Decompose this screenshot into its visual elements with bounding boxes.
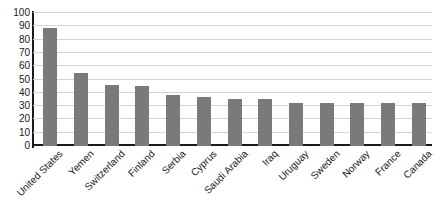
y-tick-label: 50 — [4, 75, 30, 85]
category-label: Cyprus — [188, 148, 218, 178]
bar — [166, 95, 180, 146]
bar-chart: 1009080706050403020100 United StatesYeme… — [0, 0, 434, 222]
bar — [135, 86, 149, 147]
x-axis-category-labels: United StatesYemenSwitzerlandFinlandSerb… — [33, 148, 432, 222]
y-tick-label: 30 — [4, 101, 30, 111]
y-tick-label: 20 — [4, 114, 30, 124]
bar — [258, 99, 272, 146]
bars-layer — [33, 13, 432, 146]
category-label: Sweden — [308, 148, 341, 181]
bar — [43, 28, 57, 146]
category-label: Serbia — [160, 148, 188, 176]
y-tick-label: 60 — [4, 61, 30, 71]
category-label: France — [373, 148, 403, 178]
category-label: Iraq — [260, 148, 280, 168]
bar — [350, 103, 364, 146]
bar — [412, 103, 426, 146]
y-tick-label: 70 — [4, 48, 30, 58]
category-label: Yemen — [66, 148, 96, 178]
bar — [105, 85, 119, 146]
bar — [381, 103, 395, 146]
y-tick-label: 10 — [4, 128, 30, 138]
y-tick-label: 90 — [4, 21, 30, 31]
plot-area — [33, 13, 432, 146]
category-label: Canada — [401, 148, 434, 181]
bar — [197, 97, 211, 146]
bar — [228, 99, 242, 146]
bar — [74, 73, 88, 146]
y-tick-label: 40 — [4, 88, 30, 98]
category-label: Norway — [340, 148, 372, 180]
category-label: Finland — [126, 148, 157, 179]
category-label: Uruguay — [276, 148, 311, 183]
bar — [289, 103, 303, 146]
y-tick-label: 100 — [4, 8, 30, 18]
y-tick-label: 80 — [4, 35, 30, 45]
y-tick-label: 0 — [4, 141, 30, 151]
bar — [320, 103, 334, 146]
